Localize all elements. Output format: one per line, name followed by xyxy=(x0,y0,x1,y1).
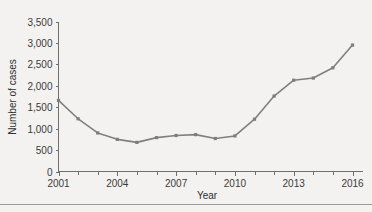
y-axis-tick-labels: 05001,0001,5002,0002,5003,0003,500 xyxy=(27,17,52,178)
y-tick-label: 2,500 xyxy=(27,59,52,70)
y-tick-label: 1,000 xyxy=(27,124,52,135)
x-tick-label: 2001 xyxy=(47,178,70,189)
data-point-marker xyxy=(312,76,315,79)
x-tick-label: 2004 xyxy=(106,178,129,189)
y-tick-label: 1,500 xyxy=(27,102,52,113)
data-point-marker xyxy=(273,94,276,97)
y-tick-label: 0 xyxy=(47,167,53,178)
x-tick-label: 2016 xyxy=(341,178,364,189)
data-point-marker xyxy=(331,66,334,69)
footer-divider xyxy=(0,204,372,205)
data-point-marker xyxy=(57,99,60,102)
data-point-marker xyxy=(155,136,158,139)
data-point-marker xyxy=(96,131,99,134)
chart-figure: Number of cases Year 05001,0001,5002,000… xyxy=(0,0,372,212)
data-point-marker xyxy=(292,79,295,82)
data-point-marker xyxy=(77,117,80,120)
x-axis-title: Year xyxy=(197,190,218,201)
y-tick-label: 500 xyxy=(36,145,53,156)
data-point-marker xyxy=(233,134,236,137)
data-point-marker xyxy=(116,138,119,141)
series-line-number-of-cases xyxy=(59,45,353,142)
y-axis-title: Number of cases xyxy=(7,59,18,135)
data-point-marker xyxy=(214,137,217,140)
series-markers xyxy=(57,43,354,143)
y-tick-label: 3,500 xyxy=(27,17,52,28)
data-point-marker xyxy=(175,134,178,137)
x-tick-label: 2007 xyxy=(165,178,188,189)
data-point-marker xyxy=(135,141,138,144)
x-axis-tick-labels: 200120042007201020132016 xyxy=(47,178,364,189)
x-axis-tick-marks xyxy=(60,172,354,176)
x-tick-label: 2010 xyxy=(224,178,247,189)
y-tick-label: 3,000 xyxy=(27,38,52,49)
x-tick-label: 2013 xyxy=(283,178,306,189)
line-chart: Number of cases Year 05001,0001,5002,000… xyxy=(0,0,372,205)
data-point-marker xyxy=(194,133,197,136)
data-point-marker xyxy=(351,43,354,46)
y-tick-label: 2,000 xyxy=(27,81,52,92)
data-point-marker xyxy=(253,118,256,121)
